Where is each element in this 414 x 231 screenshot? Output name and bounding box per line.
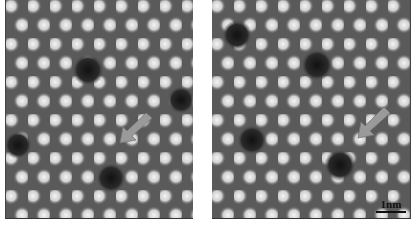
stm-image-left (5, 0, 193, 219)
scale-bar: 1nm (376, 198, 406, 213)
atomic-lattice-left (6, 0, 193, 218)
atomic-lattice-right (212, 0, 410, 218)
scale-bar-label: 1nm (376, 198, 406, 210)
scale-bar-line (376, 211, 406, 213)
stm-image-right: 1nm (212, 0, 411, 219)
